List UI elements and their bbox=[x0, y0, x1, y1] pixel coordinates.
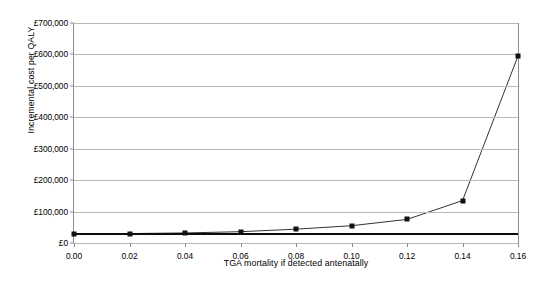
chart-figure: Incremental cost per QALY £0£100,000£200… bbox=[0, 0, 541, 292]
x-tick-mark bbox=[130, 243, 131, 247]
data-point-marker bbox=[127, 231, 132, 236]
y-tick-label: £300,000 bbox=[34, 144, 68, 154]
y-gridline bbox=[74, 117, 518, 118]
y-tick-mark bbox=[70, 211, 74, 212]
y-gridline bbox=[74, 149, 518, 150]
y-gridline bbox=[74, 212, 518, 213]
x-tick-mark bbox=[74, 243, 75, 247]
data-point-marker bbox=[238, 229, 243, 234]
y-tick-label: £600,000 bbox=[34, 49, 68, 59]
data-point-marker bbox=[349, 223, 354, 228]
x-tick-mark bbox=[185, 243, 186, 247]
y-gridline bbox=[74, 23, 518, 24]
data-point-marker bbox=[72, 232, 77, 237]
x-tick-mark bbox=[518, 243, 519, 247]
y-tick-mark bbox=[70, 117, 74, 118]
data-point-marker bbox=[516, 54, 521, 59]
y-tick-label: £500,000 bbox=[34, 81, 68, 91]
figure-caption bbox=[30, 282, 520, 292]
x-tick-mark bbox=[241, 243, 242, 247]
y-tick-label: £100,000 bbox=[34, 207, 68, 217]
y-gridline bbox=[74, 180, 518, 181]
x-tick-mark bbox=[296, 243, 297, 247]
data-point-marker bbox=[183, 230, 188, 235]
y-gridline bbox=[74, 54, 518, 55]
y-tick-label: £400,000 bbox=[34, 112, 68, 122]
plot-area: £0£100,000£200,000£300,000£400,000£500,0… bbox=[73, 23, 519, 243]
x-tick-mark bbox=[352, 243, 353, 247]
y-tick-label: £700,000 bbox=[34, 18, 68, 28]
y-tick-mark bbox=[70, 180, 74, 181]
y-gridline bbox=[74, 86, 518, 87]
y-tick-mark bbox=[70, 23, 74, 24]
data-point-marker bbox=[405, 217, 410, 222]
y-tick-mark bbox=[70, 148, 74, 149]
series-line bbox=[74, 23, 518, 243]
x-tick-mark bbox=[463, 243, 464, 247]
threshold-line bbox=[74, 233, 518, 235]
y-tick-mark bbox=[70, 54, 74, 55]
y-tick-label: £200,000 bbox=[34, 175, 68, 185]
y-tick-label: £0 bbox=[59, 238, 68, 248]
data-point-marker bbox=[294, 227, 299, 232]
x-tick-mark bbox=[407, 243, 408, 247]
x-axis-title: TGA mortality if detected antenatally bbox=[73, 258, 519, 268]
data-point-marker bbox=[460, 198, 465, 203]
y-tick-mark bbox=[70, 85, 74, 86]
